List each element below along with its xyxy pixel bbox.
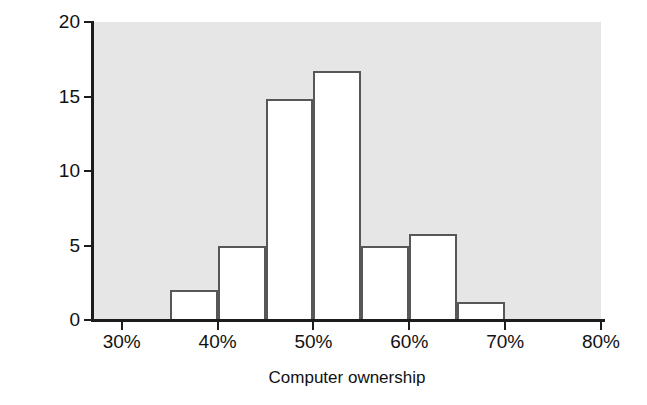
y-axis-tick-label: 0 [4, 310, 80, 329]
x-axis-tick [600, 321, 602, 330]
histogram-bar [361, 246, 409, 321]
x-axis-tick-label: 80% [561, 332, 641, 351]
x-axis-tick [408, 321, 410, 330]
histogram-bar [266, 99, 314, 320]
y-axis-tick [84, 319, 92, 321]
x-axis-tick-label: 30% [82, 332, 162, 351]
x-axis-line [91, 319, 605, 322]
x-axis-tick [504, 321, 506, 330]
histogram-figure: Frequency (number of states) 05101520 30… [0, 0, 647, 405]
y-axis-tick [84, 21, 92, 23]
y-axis-tick [84, 245, 92, 247]
y-axis-tick [84, 96, 92, 98]
x-axis-tick [217, 321, 219, 330]
y-axis-tick-label: 5 [4, 236, 80, 255]
y-axis-tick-label: 10 [4, 161, 80, 180]
y-axis-tick [84, 170, 92, 172]
x-axis-tick [312, 321, 314, 330]
histogram-bar [218, 246, 266, 321]
histogram-bar [313, 71, 361, 320]
histogram-bar [457, 302, 505, 320]
x-axis-tick-label: 40% [178, 332, 258, 351]
x-axis-tick-label: 50% [273, 332, 353, 351]
y-axis-tick-label: 20 [4, 12, 80, 31]
x-axis-tick-label: 60% [369, 332, 449, 351]
histogram-bar [170, 290, 218, 320]
x-axis-tick-label: 70% [465, 332, 545, 351]
x-axis-tick [121, 321, 123, 330]
histogram-bar [409, 234, 457, 320]
y-axis-tick-label: 15 [4, 87, 80, 106]
x-axis-title: Computer ownership [93, 368, 601, 388]
